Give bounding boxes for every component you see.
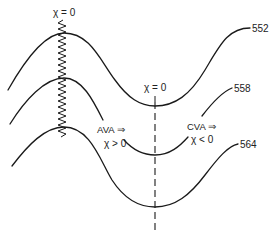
curve-558 xyxy=(10,78,103,124)
curve-558-mid xyxy=(124,137,188,155)
label-cva: CVA ⇒ xyxy=(187,121,216,132)
label-ava: AVA ⇒ xyxy=(97,124,125,135)
label-cva-condition: χ < 0 xyxy=(191,134,214,145)
curve-label-564: 564 xyxy=(240,139,257,150)
potential-energy-diagram: χ = 0 χ = 0 AVA ⇒ χ > 0 CVA ⇒ χ < 0 552 … xyxy=(0,0,278,233)
curve-552 xyxy=(8,28,250,106)
curve-label-552: 552 xyxy=(252,23,269,34)
label-chi-zero-center: χ = 0 xyxy=(144,82,167,93)
curve-label-558: 558 xyxy=(234,83,251,94)
label-chi-zero-left: χ = 0 xyxy=(53,7,76,18)
curve-558-end xyxy=(202,88,232,116)
label-ava-condition: χ > 0 xyxy=(104,138,127,149)
